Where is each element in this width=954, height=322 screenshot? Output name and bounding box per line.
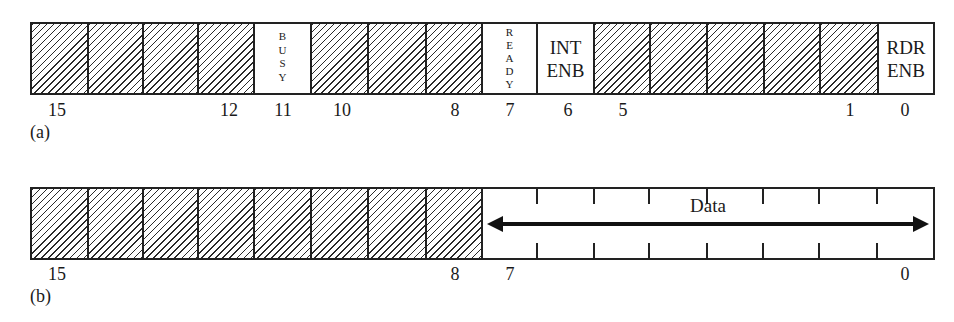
busy-letter: Y [255, 71, 310, 85]
rdr-enb-line2: ENB [879, 59, 933, 82]
arrow-head-right-icon [913, 216, 929, 232]
bit-number-0: 0 [890, 100, 920, 120]
reserved-bit-1 [821, 24, 879, 93]
reserved-bit-13 [144, 24, 199, 93]
ready-bit-7: R E A D Y [483, 24, 538, 93]
bit-number-7: 7 [495, 264, 525, 284]
reserved-bit-12 [199, 24, 255, 93]
int-enb-bit-6: INT ENB [538, 24, 595, 93]
bit-tick [762, 243, 764, 258]
bit-number-1: 1 [835, 100, 865, 120]
bit-number-6: 6 [553, 100, 583, 120]
reserved-bit-14 [89, 24, 144, 93]
bit-tick [706, 243, 708, 258]
ready-letter: D [483, 65, 536, 78]
int-enb-label: INT ENB [538, 36, 593, 82]
reserved-bit-15 [32, 24, 89, 93]
bit-number-12: 12 [214, 100, 244, 120]
reserved-bit-12 [199, 189, 255, 258]
double-arrow-icon [501, 222, 915, 226]
reserved-bit-14 [89, 189, 144, 258]
bit-number-15: 15 [42, 264, 72, 284]
rdr-enb-line1: RDR [879, 36, 933, 59]
busy-letter: B [255, 30, 310, 44]
bit-number-11: 11 [268, 100, 298, 120]
busy-label: B U S Y [255, 30, 310, 84]
busy-bit-11: B U S Y [255, 24, 312, 93]
bit-number-8: 8 [440, 264, 470, 284]
data-field: Data [483, 189, 933, 258]
reserved-bit-9 [369, 24, 427, 93]
data-label: Data [483, 195, 933, 217]
busy-letter: S [255, 57, 310, 71]
register-a: B U S Y R E A D Y INT ENB RDR ENB [30, 22, 935, 95]
reserved-bit-8 [427, 189, 483, 258]
reserved-bit-15 [32, 189, 89, 258]
reserved-bit-2 [765, 24, 821, 93]
caption-a: (a) [30, 122, 50, 142]
bit-tick [818, 243, 820, 258]
reserved-bit-10 [312, 24, 369, 93]
reserved-bit-5 [595, 24, 651, 93]
int-enb-line2: ENB [538, 59, 593, 82]
ready-letter: Y [483, 78, 536, 91]
reserved-bit-10 [312, 189, 369, 258]
bit-number-10: 10 [327, 100, 357, 120]
bit-tick [876, 243, 878, 258]
bit-number-8: 8 [440, 100, 470, 120]
bit-tick [536, 243, 538, 258]
ready-letter: R [483, 26, 536, 39]
reserved-bit-8 [427, 24, 483, 93]
rdr-enb-label: RDR ENB [879, 36, 933, 82]
bit-tick [648, 243, 650, 258]
bit-tick [593, 243, 595, 258]
ready-letter: A [483, 52, 536, 65]
bit-number-7: 7 [495, 100, 525, 120]
caption-b: (b) [30, 286, 51, 306]
reserved-bit-9 [369, 189, 427, 258]
reserved-bit-4 [651, 24, 708, 93]
busy-letter: U [255, 44, 310, 58]
reserved-bit-11 [255, 189, 312, 258]
bit-number-0: 0 [890, 264, 920, 284]
bit-number-15: 15 [42, 100, 72, 120]
register-b: Data [30, 187, 935, 260]
int-enb-line1: INT [538, 36, 593, 59]
arrow-head-left-icon [487, 216, 503, 232]
bit-number-5: 5 [608, 100, 638, 120]
rdr-enb-bit-0: RDR ENB [879, 24, 933, 93]
ready-label: R E A D Y [483, 26, 536, 91]
reserved-bit-3 [708, 24, 765, 93]
ready-letter: E [483, 39, 536, 52]
reserved-bit-13 [144, 189, 199, 258]
